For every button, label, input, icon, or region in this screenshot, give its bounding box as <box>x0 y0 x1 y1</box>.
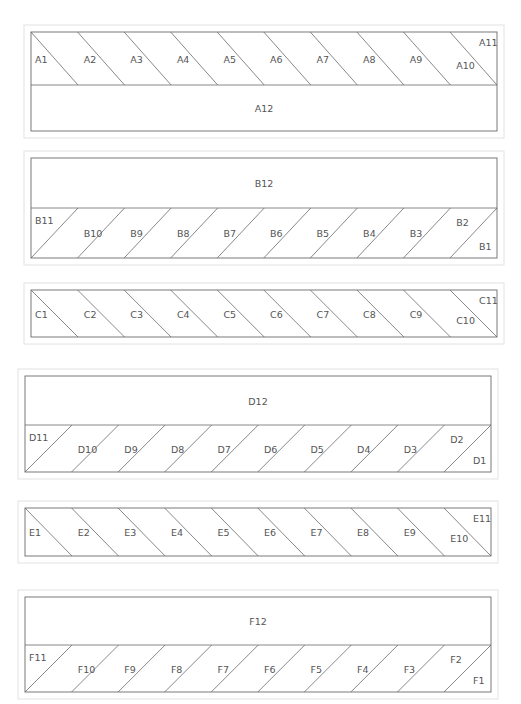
cell-label: D7 <box>217 444 230 455</box>
block-a: A12A1A2A3A4A5A6A7A8A9A10A11 <box>31 32 498 131</box>
cell-label: B7 <box>223 228 236 239</box>
cell-label: E8 <box>357 527 369 538</box>
cell-label: E3 <box>124 527 136 538</box>
cell-label: B6 <box>270 228 283 239</box>
cell-label: E10 <box>450 533 468 544</box>
cell-label: C2 <box>84 309 97 320</box>
blocks: A12A1A2A3A4A5A6A7A8A9A10A11B12B11B10B9B8… <box>25 32 498 692</box>
cell-label: E5 <box>217 527 229 538</box>
cell-label: E1 <box>29 527 41 538</box>
cell-label: F5 <box>311 664 323 675</box>
cell-label: A4 <box>177 54 190 65</box>
cell-label: F1 <box>473 675 485 686</box>
cell-label: F8 <box>171 664 183 675</box>
cell-label: B8 <box>177 228 190 239</box>
cell-label: C10 <box>456 315 475 326</box>
cell-label: A5 <box>223 54 236 65</box>
block-c: C1C2C3C4C5C6C7C8C9C10C11 <box>31 290 498 337</box>
cell-label: B4 <box>363 228 376 239</box>
cell-label: B1 <box>479 241 492 252</box>
cell-label: D8 <box>171 444 184 455</box>
block-e: E1E2E3E4E5E6E7E8E9E10E11 <box>25 508 491 556</box>
cell-label: A10 <box>456 60 475 71</box>
cell-label: A2 <box>84 54 97 65</box>
cell-label: D5 <box>311 444 324 455</box>
cell-label: D2 <box>450 434 463 445</box>
cell-label: B10 <box>84 228 103 239</box>
cell-label: A6 <box>270 54 283 65</box>
cell-label: D3 <box>404 444 417 455</box>
cell-label: C8 <box>363 309 376 320</box>
block-d: D12D11D10D9D8D7D6D5D4D3D2D1 <box>25 376 491 472</box>
cell-label: D11 <box>29 432 48 443</box>
cell-label: E6 <box>264 527 276 538</box>
cell-label: C5 <box>223 309 236 320</box>
cell-label: C4 <box>177 309 190 320</box>
panel-layout-diagram: A12A1A2A3A4A5A6A7A8A9A10A11B12B11B10B9B8… <box>0 0 521 704</box>
cell-label: E7 <box>311 527 323 538</box>
block-b: B12B11B10B9B8B7B6B5B4B3B2B1 <box>31 158 497 258</box>
cell-label: E11 <box>473 513 491 524</box>
cell-label: F11 <box>29 652 47 663</box>
cell-label: E2 <box>78 527 90 538</box>
big-panel-label: B12 <box>255 178 274 189</box>
cell-label: E4 <box>171 527 183 538</box>
cell-label: D6 <box>264 444 277 455</box>
cell-label: F10 <box>78 664 96 675</box>
cell-label: F4 <box>357 664 369 675</box>
cell-label: F3 <box>404 664 416 675</box>
cell-label: A11 <box>479 37 498 48</box>
cell-label: A7 <box>317 54 330 65</box>
cell-label: A3 <box>130 54 143 65</box>
big-panel-label: D12 <box>248 396 267 407</box>
cell-label: B5 <box>317 228 330 239</box>
big-panel-label: A12 <box>255 103 274 114</box>
big-panel-label: F12 <box>249 616 267 627</box>
cell-label: C11 <box>479 295 498 306</box>
cell-label: D10 <box>78 444 97 455</box>
cell-label: A9 <box>410 54 423 65</box>
cell-label: B11 <box>35 215 54 226</box>
cell-label: D1 <box>473 455 486 466</box>
cell-label: B9 <box>130 228 143 239</box>
cell-label: F6 <box>264 664 276 675</box>
cell-label: F7 <box>217 664 229 675</box>
block-f: F12F11F10F9F8F7F6F5F4F3F2F1 <box>25 597 491 692</box>
cell-label: D9 <box>124 444 137 455</box>
cell-label: E9 <box>404 527 416 538</box>
cell-label: F9 <box>124 664 136 675</box>
cell-label: A8 <box>363 54 376 65</box>
block-outline <box>31 32 497 131</box>
cell-label: B2 <box>456 217 469 228</box>
block-outline <box>25 376 491 472</box>
cell-label: F2 <box>450 654 462 665</box>
block-outline <box>25 597 491 692</box>
cell-label: B3 <box>410 228 423 239</box>
cell-label: A1 <box>35 54 48 65</box>
cell-label: D4 <box>357 444 370 455</box>
cell-label: C1 <box>35 309 48 320</box>
cell-label: C7 <box>317 309 330 320</box>
cell-label: C6 <box>270 309 283 320</box>
cell-label: C3 <box>130 309 143 320</box>
cell-label: C9 <box>410 309 423 320</box>
